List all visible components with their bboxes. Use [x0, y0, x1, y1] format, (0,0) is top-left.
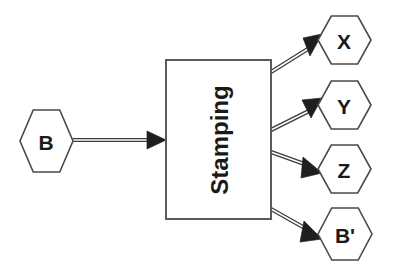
node-bprime-label: B' — [335, 224, 355, 247]
node-stamping[interactable]: Stamping — [166, 60, 271, 219]
node-y[interactable]: Y — [318, 81, 371, 129]
connector-line-inner — [271, 110, 311, 130]
connector-line-inner — [271, 47, 311, 72]
connector-stamping-to-bprime — [271, 209, 322, 242]
connector-stamping-to-z — [271, 152, 322, 178]
node-x[interactable]: X — [318, 16, 371, 64]
node-bprime[interactable]: B' — [318, 208, 372, 260]
node-x-label: X — [337, 30, 351, 53]
node-y-label: Y — [337, 95, 351, 118]
connector-b-to-stamping — [73, 131, 166, 149]
connector-stamping-to-y — [271, 98, 322, 130]
connector-stamping-to-x — [271, 34, 322, 72]
arrow-head-icon — [147, 131, 166, 149]
node-z[interactable]: Z — [318, 145, 371, 193]
node-b[interactable]: B — [20, 110, 73, 172]
node-b-label: B — [38, 131, 53, 154]
node-z-label: Z — [338, 159, 351, 182]
diagram-canvas: B Stamping X Y Z B' — [0, 0, 394, 280]
flow-diagram: B Stamping X Y Z B' — [0, 0, 394, 280]
node-stamping-label: Stamping — [206, 85, 233, 194]
